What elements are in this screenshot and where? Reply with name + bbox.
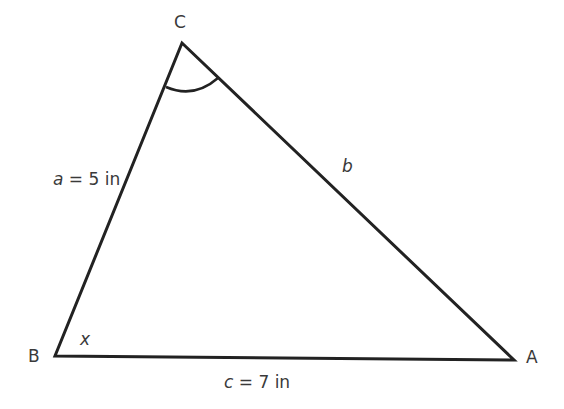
angle-c-arc bbox=[166, 78, 218, 91]
side-c-label: c = 7 in bbox=[224, 372, 290, 392]
triangle-abc bbox=[55, 43, 514, 360]
triangle-diagram: C B A a = 5 in b c = 7 in x bbox=[0, 0, 564, 409]
vertex-b-label: B bbox=[28, 346, 40, 366]
side-a-label: a = 5 in bbox=[53, 169, 120, 189]
side-a-var: a bbox=[53, 169, 63, 189]
vertex-c-label: C bbox=[174, 12, 186, 32]
vertex-a-label: A bbox=[526, 347, 538, 367]
side-c-value: = 7 in bbox=[233, 372, 290, 392]
angle-b-label: x bbox=[79, 329, 91, 349]
side-b-label: b bbox=[342, 156, 353, 176]
side-a-value: = 5 in bbox=[63, 169, 120, 189]
